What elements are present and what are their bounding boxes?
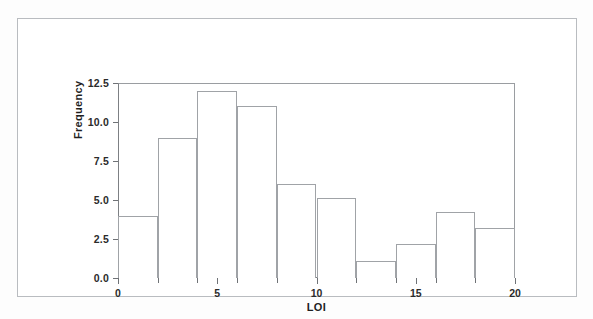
y-axis-title: Frequency: [72, 81, 84, 139]
y-axis-tick-label: 2.5: [94, 233, 109, 245]
x-axis-minor-tick: [158, 278, 159, 283]
histogram-bar: [237, 106, 277, 278]
histogram-bar: [158, 138, 198, 278]
x-axis: 05101520: [118, 278, 515, 279]
x-axis-tick: [118, 278, 119, 284]
x-axis-tick-label: 15: [410, 287, 422, 299]
y-axis-tick-label: 5.0: [94, 194, 109, 206]
histogram-bar: [197, 91, 237, 278]
figure-frame: Frequency 0.02.55.07.510.012.5 05101520 …: [17, 18, 577, 297]
x-axis-tick-label: 0: [115, 287, 121, 299]
x-axis-title: LOI: [118, 301, 515, 313]
histogram-bar: [317, 198, 357, 278]
x-axis-minor-tick: [277, 278, 278, 283]
figure-canvas: Frequency 0.02.55.07.510.012.5 05101520 …: [0, 0, 593, 319]
y-axis-tick-label: 7.5: [94, 155, 109, 167]
x-axis-tick: [217, 278, 218, 284]
x-axis-minor-tick: [197, 278, 198, 283]
histogram-bar: [356, 261, 396, 278]
histogram-bar: [396, 244, 436, 278]
x-axis-minor-tick: [396, 278, 397, 283]
histogram-bars: [118, 83, 515, 278]
y-axis-tick-label: 10.0: [88, 116, 109, 128]
histogram-bar: [277, 184, 317, 278]
x-axis-tick-label: 5: [214, 287, 220, 299]
histogram-bar: [436, 212, 476, 278]
x-axis-tick: [416, 278, 417, 284]
x-axis-tick: [317, 278, 318, 284]
x-axis-minor-tick: [436, 278, 437, 283]
x-axis-tick-label: 10: [311, 287, 323, 299]
y-axis-tick-label: 0.0: [94, 272, 109, 284]
histogram-bar: [118, 216, 158, 278]
x-axis-tick-label: 20: [509, 287, 521, 299]
histogram-bar: [475, 228, 515, 278]
x-axis-minor-tick: [356, 278, 357, 283]
x-axis-minor-tick: [237, 278, 238, 283]
x-axis-minor-tick: [475, 278, 476, 283]
y-axis-tick-label: 12.5: [88, 77, 109, 89]
plot-area: [118, 83, 515, 278]
x-axis-tick: [515, 278, 516, 284]
